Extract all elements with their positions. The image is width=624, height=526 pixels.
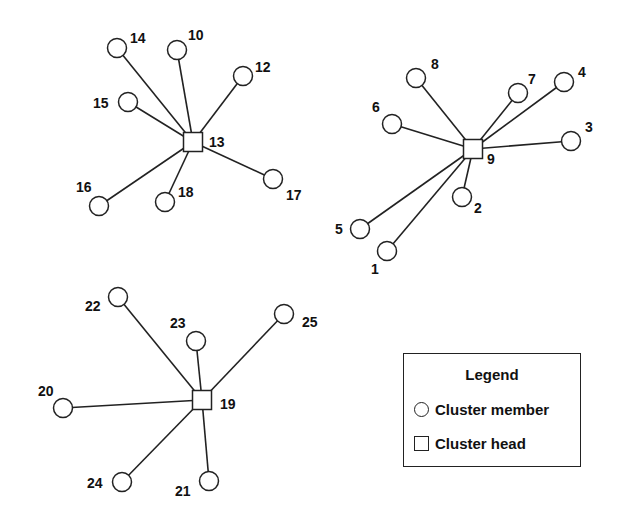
circle-icon <box>414 402 429 417</box>
legend-label: Cluster head <box>435 435 526 452</box>
node-label-1: 1 <box>371 261 379 277</box>
cluster-member-node-5 <box>351 220 370 239</box>
cluster-member-node-15 <box>119 93 138 112</box>
legend-title: Legend <box>404 366 580 383</box>
cluster-diagram: 141012151716181387463251922232520242119 … <box>0 0 624 526</box>
node-label-20: 20 <box>38 383 54 399</box>
square-icon <box>414 436 429 451</box>
cluster-head-node-13 <box>184 133 203 152</box>
node-label-10: 10 <box>188 27 204 43</box>
edge-9-8 <box>416 78 473 149</box>
node-label-2: 2 <box>474 200 482 216</box>
cluster-member-node-21 <box>200 472 219 491</box>
node-label-23: 23 <box>170 315 186 331</box>
legend-label: Cluster member <box>435 401 549 418</box>
edge-9-3 <box>473 141 571 149</box>
cluster-member-node-22 <box>109 288 128 307</box>
cluster-member-node-2 <box>453 188 472 207</box>
cluster-member-node-16 <box>90 197 109 216</box>
cluster-member-node-10 <box>168 41 187 60</box>
cluster-member-node-7 <box>509 84 528 103</box>
node-label-5: 5 <box>335 221 343 237</box>
cluster-member-node-1 <box>378 242 397 261</box>
node-label-15: 15 <box>93 95 109 111</box>
cluster-member-node-14 <box>108 39 127 58</box>
node-label-21: 21 <box>175 483 191 499</box>
node-label-19: 19 <box>220 396 236 412</box>
edge-19-24 <box>122 400 202 482</box>
edge-19-20 <box>63 400 202 408</box>
cluster-head-node-9 <box>464 140 483 159</box>
node-label-24: 24 <box>87 475 103 491</box>
legend-box: Legend Cluster member Cluster head <box>403 353 581 467</box>
cluster-head-node-19 <box>193 391 212 410</box>
node-label-14: 14 <box>130 30 146 46</box>
edge-9-6 <box>392 124 473 149</box>
cluster-member-node-18 <box>156 193 175 212</box>
node-label-6: 6 <box>372 99 380 115</box>
cluster-member-node-8 <box>407 69 426 88</box>
cluster-member-node-17 <box>264 170 283 189</box>
cluster-member-node-24 <box>113 473 132 492</box>
node-label-13: 13 <box>209 134 225 150</box>
cluster-member-node-4 <box>555 73 574 92</box>
node-label-3: 3 <box>585 119 593 135</box>
cluster-member-node-20 <box>54 399 73 418</box>
node-label-4: 4 <box>578 64 586 80</box>
node-label-16: 16 <box>76 179 92 195</box>
cluster-member-node-3 <box>562 132 581 151</box>
edge-13-10 <box>177 50 193 142</box>
edge-19-21 <box>202 400 209 481</box>
node-label-12: 12 <box>255 59 271 75</box>
node-label-8: 8 <box>431 56 439 72</box>
legend-item-cluster-member: Cluster member <box>414 401 549 418</box>
node-label-9: 9 <box>487 151 495 167</box>
edge-13-17 <box>193 142 273 179</box>
node-label-7: 7 <box>528 71 536 87</box>
node-label-18: 18 <box>178 184 194 200</box>
cluster-member-node-25 <box>275 305 294 324</box>
cluster-member-node-23 <box>187 332 206 351</box>
node-label-17: 17 <box>286 187 302 203</box>
cluster-member-node-12 <box>234 67 253 86</box>
edge-19-25 <box>202 314 284 400</box>
node-label-25: 25 <box>302 314 318 330</box>
node-label-22: 22 <box>85 298 101 314</box>
cluster-member-node-6 <box>383 115 402 134</box>
legend-item-cluster-head: Cluster head <box>414 435 526 452</box>
